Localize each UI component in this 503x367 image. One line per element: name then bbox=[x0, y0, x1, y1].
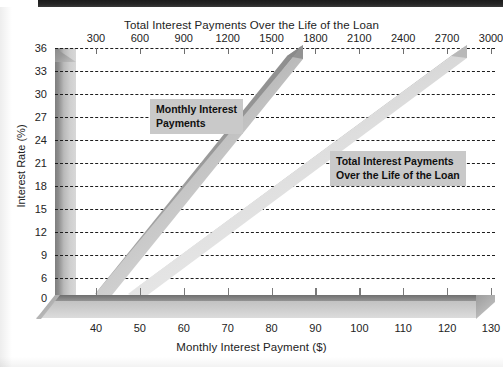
bottom-tick-mark bbox=[140, 288, 141, 295]
y-tick-label: 30 bbox=[35, 88, 47, 100]
y-tick-label: 21 bbox=[35, 157, 47, 169]
top-tick-label: 3000 bbox=[479, 32, 503, 44]
annotation-total-line1: Total Interest Payments bbox=[336, 155, 454, 167]
bottom-axis-title: Monthly Interest Payment ($) bbox=[0, 341, 503, 353]
top-tick-label: 600 bbox=[131, 32, 149, 44]
bottom-tick-label: 100 bbox=[350, 322, 368, 334]
y-tick-label: 15 bbox=[35, 203, 47, 215]
bottom-tick-mark bbox=[228, 288, 229, 295]
top-tick-label: 1200 bbox=[215, 32, 239, 44]
annotation-total-interest-payments: Total Interest PaymentsOver the Life of … bbox=[330, 151, 466, 186]
y-tick-label: 24 bbox=[35, 134, 47, 146]
top-tick-label: 2100 bbox=[347, 32, 371, 44]
bottom-tick-mark bbox=[491, 288, 492, 295]
annotation-monthly-line1: Monthly Interest bbox=[156, 103, 237, 115]
y-tick-label: 0 bbox=[41, 292, 47, 304]
bottom-tick-mark bbox=[96, 288, 97, 295]
bottom-tick-label: 70 bbox=[222, 322, 234, 334]
interest-rate-chart: Total Interest Payments Over the Life of… bbox=[0, 0, 503, 367]
bottom-tick-label: 110 bbox=[394, 322, 412, 334]
bottom-tick-label: 50 bbox=[134, 322, 146, 334]
top-tick-label: 2700 bbox=[435, 32, 459, 44]
annotation-total-line2: Over the Life of the Loan bbox=[336, 169, 460, 181]
bottom-tick-label: 130 bbox=[482, 322, 500, 334]
chart-floor-top bbox=[55, 295, 495, 302]
bottom-tick-label: 80 bbox=[265, 322, 277, 334]
bottom-tick-label: 60 bbox=[178, 322, 190, 334]
bottom-tick-label: 120 bbox=[438, 322, 456, 334]
y-tick-label: 36 bbox=[35, 42, 47, 54]
bottom-tick-mark bbox=[184, 288, 185, 295]
top-axis-title: Total Interest Payments Over the Life of… bbox=[0, 19, 503, 31]
y-tick-label: 9 bbox=[41, 249, 47, 261]
bottom-tick-label: 90 bbox=[309, 322, 321, 334]
top-tick-label: 1500 bbox=[259, 32, 283, 44]
y-tick-label: 18 bbox=[35, 180, 47, 192]
top-tick-label: 1800 bbox=[303, 32, 327, 44]
y-tick-label: 33 bbox=[35, 65, 47, 77]
bottom-tick-label: 40 bbox=[90, 322, 102, 334]
top-tick-label: 900 bbox=[175, 32, 193, 44]
y-tick-label: 12 bbox=[35, 226, 47, 238]
bottom-tick-mark bbox=[359, 288, 360, 295]
y-tick-label: 27 bbox=[35, 111, 47, 123]
annotation-monthly-interest-payments: Monthly InterestPayments bbox=[150, 99, 243, 134]
bottom-tick-mark bbox=[403, 288, 404, 295]
chart-floor-front bbox=[36, 301, 495, 318]
y-axis-tick-labels: 363330272421181512960 bbox=[0, 0, 47, 367]
top-tick-label: 2400 bbox=[391, 32, 415, 44]
bottom-tick-mark bbox=[315, 288, 316, 295]
y-tick-label: 6 bbox=[41, 272, 47, 284]
chart-floor-right-cap bbox=[476, 295, 498, 319]
annotation-monthly-line2: Payments bbox=[156, 117, 206, 129]
top-tick-label: 300 bbox=[87, 32, 105, 44]
bottom-tick-mark bbox=[272, 288, 273, 295]
scan-edge-shadow-bottom bbox=[0, 357, 503, 367]
bottom-tick-mark bbox=[447, 288, 448, 295]
